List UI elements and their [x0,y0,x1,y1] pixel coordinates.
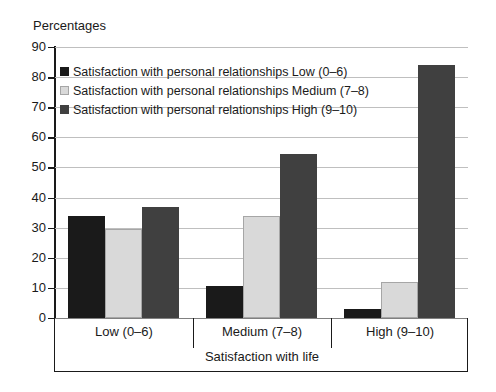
legend-label: Satisfaction with personal relationships… [73,103,357,117]
legend-item: Satisfaction with personal relationships… [60,62,390,81]
bar [418,65,455,318]
y-axis-tick-label: 40 [16,191,46,204]
y-axis-tick-label: 10 [16,281,46,294]
y-axis-tick-label: 90 [16,40,46,53]
x-axis-category-label: Medium (7–8) [193,324,331,340]
bar [381,282,418,318]
chart-legend: Satisfaction with personal relationships… [60,62,390,119]
gridline [54,198,468,199]
legend-label: Satisfaction with personal relationships… [73,84,369,98]
gridline [54,167,468,168]
gridline [54,47,468,48]
y-axis-tick-label: 0 [16,311,46,324]
bar [280,154,317,318]
category-axis: Satisfaction with life Low (0–6)Medium (… [54,318,468,372]
legend-swatch-icon [60,86,69,95]
legend-label: Satisfaction with personal relationships… [73,65,347,79]
y-axis-tick-label: 20 [16,251,46,264]
y-axis-tick [48,198,55,199]
bar [243,216,280,318]
y-axis-tick [48,258,55,259]
bar [68,216,105,318]
y-axis-tick [48,318,55,319]
legend-swatch-icon [60,67,69,76]
x-axis-category-label: Low (0–6) [55,324,193,340]
bar [344,309,381,318]
y-axis-tick [48,228,55,229]
bar [105,229,142,318]
y-axis-tick [48,77,55,78]
y-axis-tick-labels: 9080706050403020100 [10,0,46,392]
y-axis-tick [48,47,55,48]
x-axis-category-label: High (9–10) [331,324,469,340]
y-axis-tick [48,107,55,108]
gridline [54,137,468,138]
y-axis-tick-label: 80 [16,70,46,83]
y-axis-tick-label: 70 [16,100,46,113]
y-axis-tick-label: 60 [16,130,46,143]
bar [142,207,179,318]
y-axis-tick [48,137,55,138]
y-axis-tick [48,167,55,168]
y-axis-tick-label: 50 [16,160,46,173]
bar [206,286,243,318]
legend-item: Satisfaction with personal relationships… [60,100,390,119]
y-axis-tick [48,288,55,289]
x-axis-title: Satisfaction with life [55,349,469,365]
y-axis-tick-label: 30 [16,221,46,234]
bar-chart: Percentages 9080706050403020100 Satisfac… [0,0,496,392]
legend-item: Satisfaction with personal relationships… [60,81,390,100]
legend-swatch-icon [60,105,69,114]
